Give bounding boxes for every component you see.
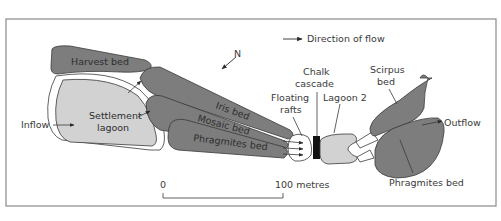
phragmites-bed-right-label: Phragmites bed <box>389 177 464 188</box>
chalk-cascade <box>313 136 320 159</box>
scirpus-bed-label-2: bed <box>377 76 395 87</box>
lagoon-2-label: Lagoon 2 <box>323 92 367 103</box>
harvest-bed-label: Harvest bed <box>71 56 129 67</box>
legend-label: Direction of flow <box>307 33 385 44</box>
chalk-cascade-label-1: Chalk <box>303 66 330 77</box>
scale-start-label: 0 <box>160 179 166 190</box>
inflow-label: Inflow <box>21 119 50 130</box>
floating-rafts <box>288 134 312 161</box>
scirpus-bed-label-1: Scirpus <box>370 64 405 75</box>
settlement-lagoon-label-2: lagoon <box>97 122 129 133</box>
north-label: N <box>234 48 241 59</box>
settlement-lagoon-label-1: Settlement <box>89 110 142 121</box>
floating-rafts-label-2: rafts <box>280 104 302 115</box>
scale-end-label: 100 metres <box>275 179 330 190</box>
chalk-cascade-label-2: cascade <box>295 78 334 89</box>
outflow-label: Outflow <box>444 117 481 128</box>
floating-rafts-label-1: Floating <box>271 92 309 103</box>
wetland-treatment-diagram: Direction of flow N Harvest bed Iris bed… <box>0 0 501 221</box>
